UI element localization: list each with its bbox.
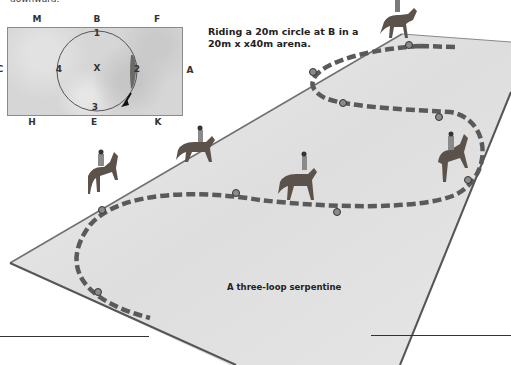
annotation-line-1: Riding a 20m circle at B in a xyxy=(208,26,358,38)
circle-point-1: 1 xyxy=(91,28,103,38)
centre-x-label: X xyxy=(91,63,103,73)
marker-k: K xyxy=(152,117,164,127)
marker-a: A xyxy=(184,65,196,75)
marker-f: F xyxy=(151,14,163,24)
marker-m: M xyxy=(31,14,43,24)
divider-right xyxy=(371,335,511,336)
marker-h: H xyxy=(26,117,38,127)
circle-point-2: 2 xyxy=(131,64,143,74)
arena-caption: A three-loop serpentine xyxy=(227,282,341,292)
marker-b: B xyxy=(91,14,103,24)
circle-point-3: 3 xyxy=(89,102,101,112)
circle-point-4: 4 xyxy=(53,64,65,74)
annotation-line-2: 20m x x40m arena. xyxy=(208,38,358,50)
marker-e: E xyxy=(88,117,100,127)
inset-annotation: Riding a 20m circle at B in a 20m x x40m… xyxy=(208,26,358,50)
marker-c: C xyxy=(0,64,6,74)
divider-left xyxy=(0,336,149,337)
